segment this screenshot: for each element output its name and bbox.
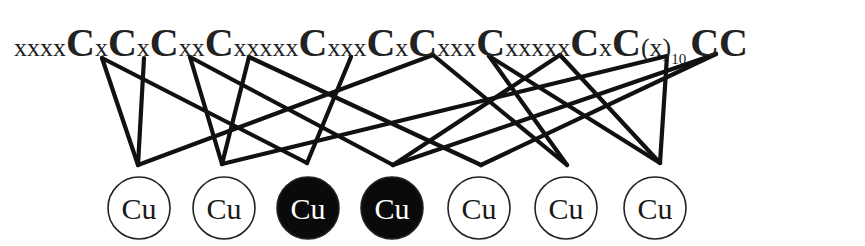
copper-cysteine-binding-diagram: xxxxCxCxCxxCxxxxxCxxxCxCxxxCxxxxxCxC(x)1… (0, 0, 865, 246)
spacer-residues: x (395, 33, 408, 62)
copper-ion-cu3-filled: Cu (277, 177, 339, 239)
bond-C2-Cu1 (138, 58, 144, 165)
spacer-residues: xxxxx (234, 33, 299, 62)
cysteine-residue: C (66, 20, 95, 65)
cysteine-residue: C (108, 20, 137, 65)
copper-label: Cu (374, 192, 409, 225)
cysteine-residue: C (612, 20, 641, 65)
spacer-residues: (x) (641, 33, 671, 62)
copper-ion-cu1-open: Cu (108, 177, 170, 239)
bond-C8-Cu4 (393, 55, 560, 165)
cysteine-residue: C (570, 20, 599, 65)
protein-sequence: xxxxCxCxCxxCxxxxxCxxxCxCxxxCxxxxxCxC(x)1… (14, 20, 748, 67)
spacer-residues: xxx (437, 33, 476, 62)
copper-label: Cu (290, 192, 325, 225)
bond-C5-Cu3 (307, 57, 351, 163)
cysteine-residue: C (150, 20, 179, 65)
copper-ions: CuCuCuCuCuCuCu (108, 177, 686, 239)
cysteine-residue: C (205, 20, 234, 65)
copper-label: Cu (637, 192, 672, 225)
repeat-count-subscript: 10 (671, 51, 686, 67)
bond-C4-Cu2 (222, 57, 249, 164)
cysteine-residue: C (408, 20, 437, 65)
copper-ion-cu4-filled: Cu (361, 177, 423, 239)
spacer-residues: xxx (327, 33, 366, 62)
spacer-residues: xxxx (14, 33, 66, 62)
spacer-residues: x (95, 33, 108, 62)
copper-label: Cu (548, 192, 583, 225)
copper-label: Cu (121, 192, 156, 225)
copper-label: Cu (206, 192, 241, 225)
spacer-residues: x (137, 33, 150, 62)
bonds (102, 54, 716, 165)
copper-label: Cu (461, 192, 496, 225)
spacer-residues: xxxxx (505, 33, 570, 62)
spacer-residues: x (599, 33, 612, 62)
cysteine-residue: C (299, 20, 328, 65)
copper-ion-cu2-open: Cu (193, 177, 255, 239)
cysteine-residue: C (366, 20, 395, 65)
copper-ion-cu6-open: Cu (535, 177, 597, 239)
cysteine-residue: C (476, 20, 505, 65)
copper-ion-cu7-open: Cu (624, 177, 686, 239)
copper-ion-cu5-open: Cu (448, 177, 510, 239)
spacer-residues: xx (179, 33, 205, 62)
cysteine-residue: CC (690, 20, 748, 65)
